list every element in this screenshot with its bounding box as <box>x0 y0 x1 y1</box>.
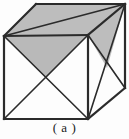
figure-container: ( a ) <box>0 0 129 139</box>
figure-caption: ( a ) <box>0 118 129 137</box>
cube-diagram <box>0 0 129 125</box>
front-top-edge-line <box>4 35 88 36</box>
